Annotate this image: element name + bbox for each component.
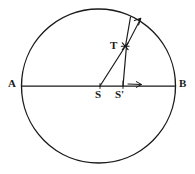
geometry-figure: A B S S' T	[0, 0, 195, 174]
point-label-s-prime: S'	[115, 89, 124, 100]
point-label-t: T	[110, 40, 117, 51]
segment-sprime-to-t	[123, 46, 127, 86]
segment-s-to-t	[100, 46, 126, 86]
point-label-b: B	[179, 78, 186, 89]
t-point-asterisk-icon	[121, 43, 129, 50]
point-label-s: S	[95, 89, 101, 100]
segment-t-to-circle	[126, 17, 131, 46]
figure-strokes	[22, 9, 176, 163]
point-label-a: A	[8, 78, 16, 89]
ray-from-t	[127, 19, 141, 46]
figure-canvas	[0, 0, 195, 174]
diameter-direction-line	[128, 84, 141, 85]
